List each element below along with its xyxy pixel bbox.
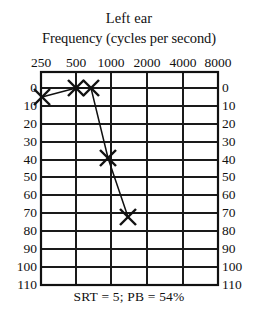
- threshold-markers: [34, 80, 136, 225]
- db-tick-label-left: 100: [17, 260, 37, 274]
- frequency-tick-label: 1000: [98, 55, 125, 71]
- page-title: Left ear: [0, 10, 258, 27]
- db-tick-label-right: 30: [222, 135, 236, 149]
- db-tick-label-left: 90: [24, 242, 38, 256]
- frequency-tick-label: 4000: [170, 55, 197, 71]
- db-tick-label-left: 30: [24, 135, 38, 149]
- db-tick-label-right: 20: [222, 117, 236, 131]
- db-tick-label-right: 100: [222, 260, 242, 274]
- db-tick-label-left: 70: [24, 206, 38, 220]
- frequency-tick-label: 500: [66, 55, 86, 71]
- db-tick-label-right: 10: [222, 99, 236, 113]
- db-tick-label-right: 70: [222, 206, 236, 220]
- frequency-tick-labels: 2505001000200040008000: [0, 55, 258, 72]
- left-db-axis-labels: 0102030405060708090100110: [0, 72, 40, 285]
- audiogram-plot: [41, 72, 218, 285]
- x-marker-icon: [100, 150, 116, 166]
- right-db-axis-labels: 0102030405060708090100110: [220, 72, 258, 285]
- db-tick-label-right: 50: [222, 170, 236, 184]
- db-tick-label-left: 60: [24, 188, 38, 202]
- frequency-tick-label: 2000: [134, 55, 161, 71]
- x-axis-title: Frequency (cycles per second): [0, 30, 258, 47]
- horizontal-gridlines: [41, 88, 218, 267]
- caption-srt-pb: SRT = 5; PB = 54%: [0, 289, 258, 305]
- vertical-gridlines: [41, 72, 218, 285]
- plot-border: [41, 72, 218, 285]
- title-block: Left ear Frequency (cycles per second): [0, 10, 258, 46]
- db-tick-label-right: 0: [222, 81, 229, 95]
- db-tick-label-right: 40: [222, 153, 236, 167]
- frequency-tick-label: 8000: [205, 55, 232, 71]
- db-tick-label-left: 40: [24, 153, 38, 167]
- db-tick-label-left: 0: [30, 81, 37, 95]
- db-tick-label-right: 80: [222, 224, 236, 238]
- db-tick-label-left: 80: [24, 224, 38, 238]
- db-tick-label-left: 50: [24, 170, 38, 184]
- x-marker-icon: [120, 209, 136, 225]
- plot-area: [41, 72, 218, 285]
- db-tick-label-left: 10: [24, 99, 38, 113]
- db-tick-label-right: 90: [222, 242, 236, 256]
- db-tick-label-right: 60: [222, 188, 236, 202]
- frequency-tick-label: 250: [31, 55, 51, 71]
- db-tick-label-left: 20: [24, 117, 38, 131]
- audiogram-figure: Left ear Frequency (cycles per second) 2…: [0, 0, 258, 324]
